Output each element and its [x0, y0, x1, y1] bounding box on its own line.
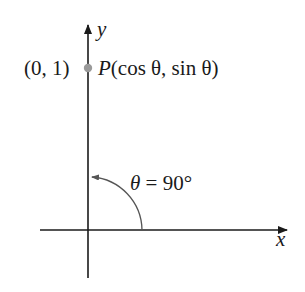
point-coordinate-label: (0, 1)	[24, 58, 70, 79]
angle-label: θ = 90°	[130, 173, 192, 194]
axes-svg	[0, 0, 305, 292]
point-p-marker	[84, 64, 92, 72]
y-axis-label: y	[97, 19, 106, 40]
point-p-label: P(cos θ, sin θ)	[98, 58, 218, 79]
angle-equals: =	[140, 171, 162, 195]
diagram-canvas: y x (0, 1) P(cos θ, sin θ) θ = 90°	[0, 0, 305, 292]
point-name: P	[98, 56, 111, 80]
angle-value: 90°	[163, 171, 192, 195]
x-axis-label: x	[276, 229, 285, 250]
point-expression: (cos θ, sin θ)	[111, 56, 219, 80]
angle-symbol: θ	[130, 171, 140, 195]
